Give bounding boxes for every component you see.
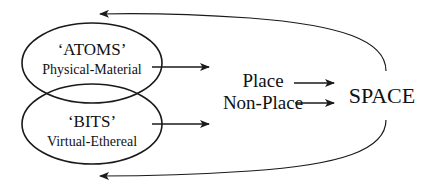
place-label: Place: [242, 70, 283, 91]
non-place-label: Non-Place: [223, 92, 303, 113]
atoms-title: ‘ATOMS’: [58, 40, 127, 59]
diagram-canvas: ‘ATOMS’ Physical-Material ‘BITS’ Virtual…: [0, 0, 437, 189]
space-to-atoms-feedback-arrow: [100, 14, 386, 71]
atoms-subtitle: Physical-Material: [42, 62, 142, 77]
space-label: SPACE: [349, 83, 415, 108]
bits-subtitle: Virtual-Ethereal: [47, 134, 137, 149]
bits-title: ‘BITS’: [68, 112, 116, 131]
space-to-bits-feedback-arrow: [100, 120, 386, 176]
